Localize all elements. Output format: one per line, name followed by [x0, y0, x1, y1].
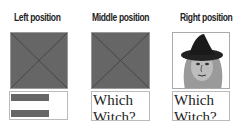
- text-line-bar: [11, 94, 49, 101]
- text-line-2: Witch?: [174, 109, 229, 121]
- text-line-1: Which: [93, 92, 149, 109]
- text-line-bar: [11, 110, 49, 117]
- right-text: Which Witch?: [172, 91, 230, 121]
- left-text-placeholder: [9, 91, 68, 120]
- text-line-1: Which: [174, 92, 229, 109]
- middle-text: Which Witch?: [91, 91, 150, 121]
- right-position-label: Right position: [180, 12, 232, 23]
- witch-image: [172, 32, 230, 89]
- left-position-label: Left position: [14, 12, 61, 23]
- middle-position-label: Middle position: [92, 12, 149, 23]
- left-image-placeholder: [10, 32, 68, 89]
- middle-image-placeholder: [91, 32, 150, 89]
- text-line-2: Witch?: [93, 109, 149, 121]
